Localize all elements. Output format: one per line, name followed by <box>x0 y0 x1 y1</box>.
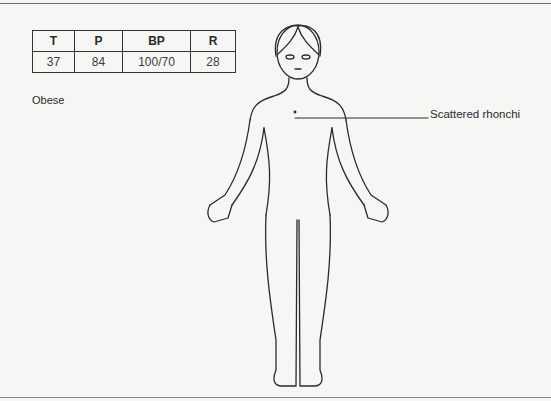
finding-label-rhonchi: Scattered rhonchi <box>430 108 520 120</box>
arms-outline <box>208 120 388 222</box>
bottom-rule <box>0 397 551 398</box>
head-outline <box>275 25 320 79</box>
body-outline-figure <box>0 0 551 401</box>
legs-outline <box>266 215 331 386</box>
torso-outline <box>250 78 346 215</box>
